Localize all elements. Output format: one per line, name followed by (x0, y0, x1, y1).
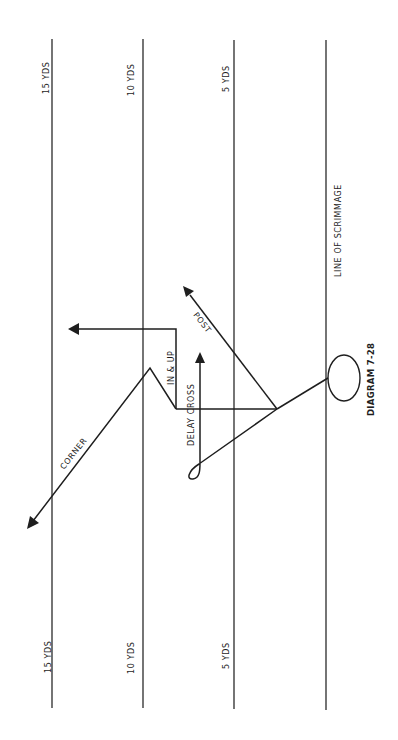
yard-label-10-bottom: 10 YDS (127, 642, 136, 674)
yard-label-5-top: 5 YDS (222, 65, 231, 92)
route-diagram: 15 YDS 10 YDS 5 YDS 15 YDS 10 YDS 5 YDS … (0, 0, 398, 740)
in-and-up-arrowhead-icon (68, 323, 79, 335)
yard-label-5-bottom: 5 YDS (222, 642, 231, 669)
yard-label-15-top: 15 YDS (42, 62, 51, 94)
post-label: POST (191, 311, 213, 335)
in-and-up-label: IN & UP (167, 350, 176, 385)
delay-cross-label: DELAY CROSS (187, 384, 196, 446)
diagram-title: DIAGRAM 7-28 (366, 343, 376, 416)
delay-cross-arrowhead-icon (195, 352, 205, 363)
corner-arrowhead-icon (27, 516, 39, 529)
delay-cross-route (189, 362, 277, 479)
line-of-scrimmage-label: LINE OF SCRIMMAGE (334, 184, 343, 277)
yard-label-10-top: 10 YDS (127, 64, 136, 96)
corner-route (33, 368, 176, 521)
receiver-circle (328, 355, 360, 401)
yard-label-15-bottom: 15 YDS (44, 641, 53, 673)
post-arrowhead-icon (183, 286, 194, 297)
release-stem (277, 378, 328, 409)
